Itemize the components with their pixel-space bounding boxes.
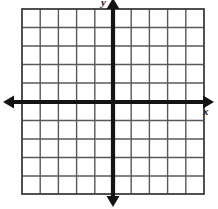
y-axis-arrow-up <box>107 0 120 9</box>
coordinate-plane-figure: y x <box>0 0 218 209</box>
y-axis-arrow-down <box>107 196 120 207</box>
y-axis-label: y <box>101 0 106 8</box>
x-axis <box>3 96 214 109</box>
x-axis-arrow-left <box>3 96 14 109</box>
coordinate-plane-svg <box>0 0 218 209</box>
x-axis-label: x <box>203 106 209 117</box>
